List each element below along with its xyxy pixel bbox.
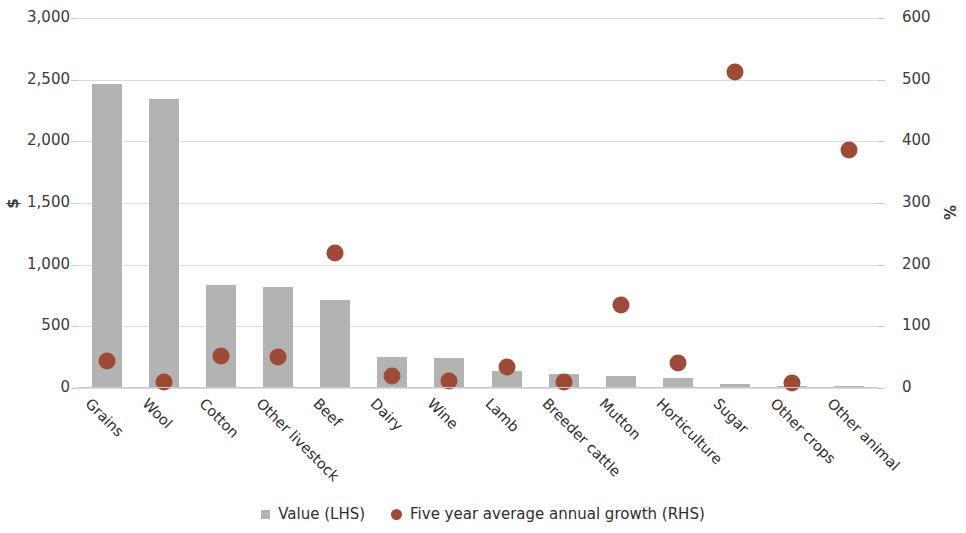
legend-square-icon — [261, 510, 270, 519]
y-axis-left-tick-label: 1,500 — [27, 195, 70, 210]
gridline — [78, 141, 878, 142]
legend-item-label: Five year average annual growth (RHS) — [410, 505, 705, 523]
y-axis-right-tick-label: 600 — [902, 10, 931, 25]
x-axis-category-label: Lamb — [482, 396, 521, 435]
chart-legend: Value (LHS)Five year average annual grow… — [0, 505, 966, 523]
y-axis-right-tickmark — [878, 203, 885, 204]
y-axis-title-right: % — [944, 205, 959, 220]
x-axis-category-label: Other animal — [825, 396, 902, 473]
scatter-point — [212, 347, 229, 364]
x-axis-category-label: Wine — [425, 396, 461, 432]
y-axis-right-tick-label: 300 — [902, 195, 931, 210]
y-axis-right-tick-label: 500 — [902, 72, 931, 87]
scatter-point — [498, 359, 515, 376]
scatter-point — [727, 64, 744, 81]
y-axis-left-tick-label: 1,000 — [27, 257, 70, 272]
scatter-point — [555, 374, 572, 391]
y-axis-left-tickmark — [71, 326, 78, 327]
gridline — [78, 388, 878, 389]
y-axis-left-tickmark — [71, 141, 78, 142]
x-axis-category-label: Dairy — [368, 396, 406, 434]
bar — [92, 84, 122, 388]
x-axis-category-label: Grains — [82, 396, 125, 439]
y-axis-left-tick-label: 3,000 — [27, 10, 70, 25]
y-axis-left-tickmark — [71, 80, 78, 81]
scatter-point — [155, 374, 172, 391]
gridline — [78, 265, 878, 266]
bar — [320, 300, 350, 388]
x-axis-category-label: Mutton — [597, 396, 643, 442]
y-axis-right-tickmark — [878, 388, 885, 389]
y-axis-left-tick-label: 2,000 — [27, 133, 70, 148]
y-axis-right-tickmark — [878, 265, 885, 266]
scatter-point — [384, 368, 401, 385]
legend-item[interactable]: Value (LHS) — [261, 505, 365, 523]
legend-circle-icon — [391, 509, 402, 520]
gridline — [78, 18, 878, 19]
gridline — [78, 326, 878, 327]
chart-container: $ % 05001,0001,5002,0002,5003,000 010020… — [0, 0, 966, 533]
scatter-point — [612, 296, 629, 313]
y-axis-left-tick-label: 500 — [41, 318, 70, 333]
y-axis-left-tick-label: 0 — [60, 380, 70, 395]
plot-area — [78, 18, 878, 388]
legend-item-label: Value (LHS) — [278, 505, 365, 523]
bar — [206, 285, 236, 388]
gridline — [78, 80, 878, 81]
scatter-point — [327, 244, 344, 261]
scatter-point — [270, 348, 287, 365]
scatter-point — [784, 375, 801, 392]
scatter-point — [98, 352, 115, 369]
x-axis-category-label: Beef — [311, 396, 345, 430]
y-axis-right-tickmark — [878, 326, 885, 327]
y-axis-right-tick-label: 100 — [902, 318, 931, 333]
bar — [263, 287, 293, 388]
x-axis-category-label: Sugar — [711, 396, 751, 436]
y-axis-right-tick-label: 400 — [902, 133, 931, 148]
y-axis-right-tick-label: 0 — [902, 380, 912, 395]
bar — [149, 99, 179, 388]
x-axis-baseline — [78, 387, 878, 388]
y-axis-left-tickmark — [71, 18, 78, 19]
legend-item[interactable]: Five year average annual growth (RHS) — [391, 505, 705, 523]
y-axis-left-tickmark — [71, 388, 78, 389]
y-axis-right-tickmark — [878, 141, 885, 142]
y-axis-left-tickmark — [71, 203, 78, 204]
y-axis-right-tickmark — [878, 18, 885, 19]
x-axis-category-label: Wool — [139, 396, 174, 431]
y-axis-left-tickmark — [71, 265, 78, 266]
gridline — [78, 203, 878, 204]
x-axis-category-label: Cotton — [197, 396, 242, 441]
y-axis-title-left: $ — [6, 198, 21, 208]
y-axis-left-tick-label: 2,500 — [27, 72, 70, 87]
scatter-point — [841, 141, 858, 158]
y-axis-right-tickmark — [878, 80, 885, 81]
scatter-point — [670, 354, 687, 371]
y-axis-right-tick-label: 200 — [902, 257, 931, 272]
